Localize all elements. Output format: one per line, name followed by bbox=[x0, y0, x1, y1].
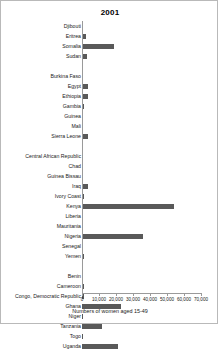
chart-category-row: Tanzania bbox=[1, 321, 219, 331]
category-label: Tanzania bbox=[0, 321, 81, 331]
bar bbox=[82, 84, 88, 89]
category-label: Sudan bbox=[0, 51, 81, 61]
bar bbox=[82, 204, 174, 209]
bar bbox=[82, 334, 83, 339]
bar-track bbox=[82, 171, 209, 181]
category-label: Senegal bbox=[0, 241, 81, 251]
category-label: Uganda bbox=[0, 341, 81, 351]
plot-area: DjiboutiEritreaSomaliaSudanBurkina FasoE… bbox=[1, 21, 219, 293]
chart-category-row: Sierra Leone bbox=[1, 131, 219, 141]
chart-category-row: Ethiopia bbox=[1, 91, 219, 101]
x-tick-label: 50,000 bbox=[160, 297, 174, 302]
x-tick-mark bbox=[184, 294, 185, 296]
bar bbox=[82, 344, 118, 349]
bar-track bbox=[82, 151, 209, 161]
category-label: Somalia bbox=[0, 41, 81, 51]
bar-track bbox=[82, 121, 209, 131]
chart-category-row: Chad bbox=[1, 161, 219, 171]
x-tick-mark bbox=[201, 294, 202, 296]
x-tick-mark bbox=[150, 294, 151, 296]
chart-category-row: Mali bbox=[1, 121, 219, 131]
category-label: Egypt bbox=[0, 81, 81, 91]
chart-category-row: Djibouti bbox=[1, 21, 219, 31]
bar bbox=[82, 184, 88, 189]
bar-track bbox=[82, 341, 209, 351]
category-label: Ivory Coast bbox=[0, 191, 81, 201]
category-label: Gambia bbox=[0, 101, 81, 111]
chart-category-row: Guinea Bissau bbox=[1, 171, 219, 181]
bar-track bbox=[82, 51, 209, 61]
chart-category-row: Nigeria bbox=[1, 231, 219, 241]
chart-category-row: Senegal bbox=[1, 241, 219, 251]
category-label: Togo bbox=[0, 331, 81, 341]
bar-track bbox=[82, 61, 209, 71]
x-tick-label: 0 bbox=[81, 297, 84, 302]
chart-category-row: Sudan bbox=[1, 51, 219, 61]
bar-track bbox=[82, 221, 209, 231]
y-axis-line bbox=[82, 21, 83, 293]
x-tick-mark bbox=[167, 294, 168, 296]
chart-category-row: Eritrea bbox=[1, 31, 219, 41]
bar-track bbox=[82, 271, 209, 281]
category-label: Ethiopia bbox=[0, 91, 81, 101]
chart-spacer-row bbox=[1, 61, 219, 71]
chart-category-row: Somalia bbox=[1, 41, 219, 51]
category-label: Benin bbox=[0, 271, 81, 281]
bar-track bbox=[82, 231, 209, 241]
bar-track bbox=[82, 161, 209, 171]
category-label: Kenya bbox=[0, 201, 81, 211]
chart-category-row: Liberia bbox=[1, 211, 219, 221]
bar bbox=[82, 134, 88, 139]
category-label: Yemen bbox=[0, 251, 81, 261]
chart-category-row: Mauritania bbox=[1, 221, 219, 231]
bar-track bbox=[82, 211, 209, 221]
x-axis-title: Numbers of women aged 15-49 bbox=[1, 308, 219, 314]
bar-track bbox=[82, 101, 209, 111]
category-label: Sierra Leone bbox=[0, 131, 81, 141]
bar bbox=[82, 324, 102, 329]
bar bbox=[82, 94, 88, 99]
x-axis-ticks: 010,00020,00030,00040,00050,00060,00070,… bbox=[1, 294, 219, 306]
category-label: Guinea Bissau bbox=[0, 171, 81, 181]
chart-category-row: Togo bbox=[1, 331, 219, 341]
bar-track bbox=[82, 71, 209, 81]
bar-track bbox=[82, 41, 209, 51]
chart-category-row: Ivory Coast bbox=[1, 191, 219, 201]
category-label: Mauritania bbox=[0, 221, 81, 231]
bar-track bbox=[82, 191, 209, 201]
x-tick-mark bbox=[82, 294, 83, 296]
category-label: Nigeria bbox=[0, 231, 81, 241]
bar-track bbox=[82, 241, 209, 251]
category-label: Liberia bbox=[0, 211, 81, 221]
bar bbox=[82, 314, 83, 319]
chart-category-row: Yemen bbox=[1, 251, 219, 261]
x-tick-label: 10,000 bbox=[92, 297, 106, 302]
chart-title: 2001 bbox=[1, 8, 219, 17]
chart-category-row: Central African Republic bbox=[1, 151, 219, 161]
chart-category-row: Benin bbox=[1, 271, 219, 281]
x-tick-label: 70,000 bbox=[194, 297, 208, 302]
chart-spacer-row bbox=[1, 141, 219, 151]
bar-track bbox=[82, 81, 209, 91]
chart-category-row: Uganda bbox=[1, 341, 219, 351]
category-label: Chad bbox=[0, 161, 81, 171]
x-tick-mark bbox=[99, 294, 100, 296]
x-tick-label: 60,000 bbox=[177, 297, 191, 302]
chart-category-row: Cameroon bbox=[1, 281, 219, 291]
x-tick-mark bbox=[116, 294, 117, 296]
bar bbox=[82, 34, 86, 39]
bar-track bbox=[82, 141, 209, 151]
bar-track bbox=[82, 201, 209, 211]
category-label: Central African Republic bbox=[0, 151, 81, 161]
category-label: Eritrea bbox=[0, 31, 81, 41]
category-label: Mali bbox=[0, 121, 81, 131]
category-label: Iraq bbox=[0, 181, 81, 191]
chart-category-row: Burkina Faso bbox=[1, 71, 219, 81]
bar-track bbox=[82, 21, 209, 31]
bar bbox=[82, 54, 87, 59]
bar-track bbox=[82, 111, 209, 121]
chart-category-row: Guinea bbox=[1, 111, 219, 121]
bar bbox=[82, 44, 114, 49]
bar-track bbox=[82, 181, 209, 191]
